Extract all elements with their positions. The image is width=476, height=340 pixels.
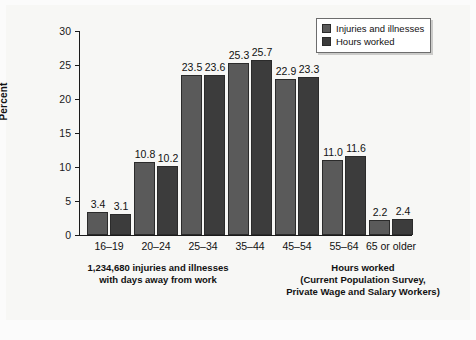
caption-left-line2: with days away from work	[48, 274, 268, 286]
legend-swatch-icon-hours	[322, 37, 331, 46]
y-axis-title: Percent	[0, 82, 9, 120]
bar[interactable]	[322, 160, 343, 235]
y-axis-tick-label: 25	[45, 59, 71, 71]
legend-label-hours: Hours worked	[336, 36, 395, 47]
bar-value-label: 23.6	[200, 61, 230, 73]
bar[interactable]	[251, 60, 272, 235]
caption-left: 1,234,680 injuries and illnesses with da…	[48, 262, 268, 286]
y-axis-tick	[75, 65, 79, 66]
y-axis-tick	[75, 99, 79, 100]
bar-value-label: 11.6	[341, 142, 371, 154]
bar[interactable]	[275, 79, 296, 235]
y-axis-tick	[75, 235, 79, 236]
legend-item-injuries[interactable]: Injuries and illnesses	[322, 22, 424, 35]
bar[interactable]	[110, 214, 131, 235]
bar[interactable]	[298, 77, 319, 235]
chart-figure: Percent 051015202530 3.43.110.810.223.52…	[0, 0, 476, 340]
y-axis-tick-label: 5	[45, 195, 71, 207]
y-axis-tick	[75, 133, 79, 134]
y-axis-tick-label: 20	[45, 93, 71, 105]
bar[interactable]	[228, 63, 249, 235]
bar-value-label: 25.7	[247, 46, 277, 58]
bar-value-label: 2.4	[388, 205, 418, 217]
bar-value-label: 3.1	[106, 200, 136, 212]
legend-swatch-icon-injuries	[322, 24, 331, 33]
caption-right-line1: Hours worked	[258, 262, 468, 274]
caption-right: Hours worked (Current Population Survey,…	[258, 262, 468, 298]
y-axis-tick-label: 15	[45, 127, 71, 139]
y-axis-tick-label: 0	[45, 229, 71, 241]
bar[interactable]	[369, 220, 390, 235]
bar[interactable]	[181, 75, 202, 235]
legend-item-hours[interactable]: Hours worked	[322, 35, 424, 48]
y-axis-tick	[75, 31, 79, 32]
bar[interactable]	[345, 156, 366, 235]
bar[interactable]	[134, 162, 155, 235]
bar[interactable]	[87, 212, 108, 235]
y-axis-line	[79, 31, 80, 236]
y-axis-tick	[75, 201, 79, 202]
y-axis-tick-label: 10	[45, 161, 71, 173]
bar[interactable]	[204, 75, 225, 235]
y-axis-tick-label: 30	[45, 25, 71, 37]
bar-value-label: 23.3	[294, 63, 324, 75]
bar[interactable]	[392, 219, 413, 235]
chart-legend: Injuries and illnesses Hours worked	[316, 18, 431, 53]
y-axis-tick	[75, 167, 79, 168]
bar-value-label: 10.2	[153, 152, 183, 164]
legend-label-injuries: Injuries and illnesses	[336, 23, 424, 34]
x-axis-category-label: 65 or older	[354, 240, 428, 252]
bar[interactable]	[157, 166, 178, 235]
caption-right-line3: Private Wage and Salary Workers)	[258, 286, 468, 298]
x-axis-line	[79, 235, 412, 236]
caption-left-line1: 1,234,680 injuries and illnesses	[48, 262, 268, 274]
caption-right-line2: (Current Population Survey,	[258, 274, 468, 286]
